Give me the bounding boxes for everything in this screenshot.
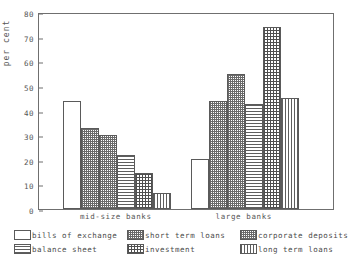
bars-layer	[39, 14, 333, 209]
y-tick-70: 70	[24, 34, 39, 43]
chart-legend: bills of exchangeshort term loanscorpora…	[14, 228, 344, 256]
bar-chart: per cent 01020304050607080 mid-size bank…	[0, 0, 351, 260]
y-tick-20: 20	[24, 157, 39, 166]
y-tick-50: 50	[24, 83, 39, 92]
y-tick-80: 80	[24, 10, 39, 19]
y-axis-label: per cent	[2, 8, 11, 78]
legend-label: bills of exchange	[32, 231, 117, 240]
y-tick-30: 30	[24, 133, 39, 142]
legend-item-short-term-loans[interactable]: short term loans	[127, 230, 240, 240]
legend-swatch-empty-icon	[14, 230, 31, 240]
bar-mid-size-banks-long-term-loans	[153, 193, 171, 209]
legend-item-corporate-deposits[interactable]: corporate deposits	[240, 230, 344, 240]
legend-swatch-vlines-icon	[240, 244, 257, 254]
bar-large-banks-corporate-deposits	[227, 74, 245, 209]
legend-label: short term loans	[145, 231, 225, 240]
y-tick-10: 10	[24, 182, 39, 191]
bar-large-banks-investment	[263, 27, 281, 209]
legend-swatch-grid-icon	[127, 244, 144, 254]
plot-area: 01020304050607080	[38, 13, 334, 210]
legend-swatch-dots-icon	[127, 230, 144, 240]
legend-label: balance sheet	[32, 245, 97, 254]
legend-item-bills-of-exchange[interactable]: bills of exchange	[14, 230, 127, 240]
bar-mid-size-banks-bills-of-exchange	[63, 101, 81, 209]
bar-mid-size-banks-investment	[135, 173, 153, 209]
y-tick-0: 0	[29, 207, 39, 216]
bar-mid-size-banks-short-term-loans	[81, 128, 99, 209]
bar-large-banks-bills-of-exchange	[191, 159, 209, 209]
bar-mid-size-banks-corporate-deposits	[99, 135, 117, 209]
legend-swatch-hlines-icon	[14, 244, 31, 254]
legend-swatch-dots-icon	[240, 230, 257, 240]
legend-label: investment	[145, 245, 195, 254]
legend-item-investment[interactable]: investment	[127, 244, 240, 254]
group-label-mid-size-banks: mid-size banks	[66, 212, 166, 221]
legend-label: corporate deposits	[258, 231, 348, 240]
bar-mid-size-banks-balance-sheet	[117, 155, 135, 209]
legend-item-balance-sheet[interactable]: balance sheet	[14, 244, 127, 254]
legend-item-long-term-loans[interactable]: long term loans	[240, 244, 344, 254]
y-tick-40: 40	[24, 108, 39, 117]
bar-large-banks-balance-sheet	[245, 104, 263, 209]
y-tick-60: 60	[24, 59, 39, 68]
legend-label: long term loans	[258, 245, 333, 254]
bar-large-banks-long-term-loans	[281, 98, 299, 209]
bar-large-banks-short-term-loans	[209, 101, 227, 209]
group-label-large-banks: large banks	[194, 212, 294, 221]
